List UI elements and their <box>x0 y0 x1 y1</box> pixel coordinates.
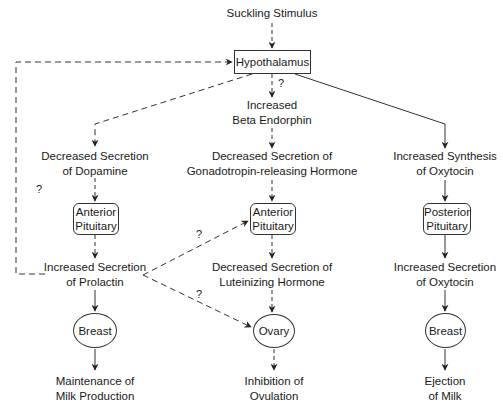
node-breast-left-label: Breast <box>78 324 111 338</box>
node-ovary: Ovary <box>253 314 295 348</box>
node-suckling-stimulus: Suckling Stimulus <box>227 6 318 21</box>
question-mark-prolactin-pituitary: ? <box>196 228 202 240</box>
node-dopamine-line2: of Dopamine <box>41 164 148 179</box>
node-posterior-pituitary-line2: Pituitary <box>426 219 468 233</box>
question-mark-prolactin-ovary: ? <box>196 288 202 300</box>
question-mark-hypothalamus-endorphin: ? <box>278 77 284 89</box>
node-breast-right: Breast <box>425 313 466 348</box>
node-beta-endorphin: Increased Beta Endorphin <box>232 98 311 128</box>
node-breast-right-label: Breast <box>429 324 462 338</box>
node-oxytocin-synthesis: Increased Synthesis of Oxytocin <box>393 149 497 179</box>
node-anterior-pituitary-mid: Anterior Pituitary <box>250 203 296 235</box>
edge-hypothalamus-dopamine <box>95 74 252 146</box>
node-hypothalamus-label: Hypothalamus <box>236 55 310 69</box>
edge-hypothalamus-oxytocin <box>295 74 445 148</box>
node-anterior-pituitary-mid-line2: Pituitary <box>252 219 294 233</box>
node-prolactin-line1: Increased Secretion <box>44 260 146 275</box>
node-oxytocin-secretion: Increased Secretion of Oxytocin <box>394 260 496 290</box>
node-lh-line1: Decreased Secretion of <box>212 260 332 275</box>
node-posterior-pituitary-line1: Posterior <box>424 205 470 219</box>
node-dopamine: Decreased Secretion of Dopamine <box>41 149 148 179</box>
node-oxytocin-secretion-line1: Increased Secretion <box>394 260 496 275</box>
node-beta-endorphin-line1: Increased <box>232 98 311 113</box>
node-posterior-pituitary: Posterior Pituitary <box>423 203 471 235</box>
node-ovulation-line1: Inhibition of <box>245 374 304 389</box>
node-prolactin: Increased Secretion of Prolactin <box>44 260 146 290</box>
node-anterior-pituitary-left-line2: Pituitary <box>75 219 117 233</box>
node-anterior-pituitary-mid-line1: Anterior <box>253 205 293 219</box>
node-milk-production-line1: Maintenance of <box>56 374 135 389</box>
node-milk-ejection-line2: of Milk <box>425 389 466 404</box>
node-breast-left: Breast <box>73 313 117 348</box>
node-anterior-pituitary-left-line1: Anterior <box>76 205 116 219</box>
node-gnrh: Decreased Secretion of Gonadotropin-rele… <box>187 149 358 179</box>
node-gnrh-line2: Gonadotropin-releasing Hormone <box>187 164 358 179</box>
lactation-flowchart: Suckling Stimulus Hypothalamus ? Increas… <box>0 0 503 412</box>
node-milk-production-line2: Milk Production <box>56 389 135 404</box>
node-milk-ejection: Ejection of Milk <box>425 374 466 404</box>
node-milk-production: Maintenance of Milk Production <box>56 374 135 404</box>
node-ovulation-line2: Ovulation <box>245 389 304 404</box>
node-anterior-pituitary-left: Anterior Pituitary <box>73 203 119 235</box>
node-prolactin-line2: of Prolactin <box>44 275 146 290</box>
node-beta-endorphin-line2: Beta Endorphin <box>232 113 311 128</box>
node-oxytocin-synthesis-line2: of Oxytocin <box>393 164 497 179</box>
node-milk-ejection-line1: Ejection <box>425 374 466 389</box>
node-hypothalamus: Hypothalamus <box>234 50 311 74</box>
node-oxytocin-synthesis-line1: Increased Synthesis <box>393 149 497 164</box>
node-lh-line2: Luteinizing Hormone <box>212 275 332 290</box>
node-lh: Decreased Secretion of Luteinizing Hormo… <box>212 260 332 290</box>
node-ovary-label: Ovary <box>259 324 290 338</box>
node-ovulation: Inhibition of Ovulation <box>245 374 304 404</box>
node-gnrh-line1: Decreased Secretion of <box>187 149 358 164</box>
question-mark-feedback: ? <box>36 183 42 195</box>
node-dopamine-line1: Decreased Secretion <box>41 149 148 164</box>
node-oxytocin-secretion-line2: of Oxytocin <box>394 275 496 290</box>
